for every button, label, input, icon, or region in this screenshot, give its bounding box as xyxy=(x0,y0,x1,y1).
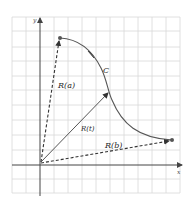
vector-curve-diagram: x y C R(a) R(t) R(b) xyxy=(0,0,191,202)
curve-end-point xyxy=(170,138,174,142)
vector-r-a xyxy=(41,41,59,162)
vector-r-t xyxy=(41,93,108,162)
curve-start-point xyxy=(58,36,62,40)
label-r-t: R(t) xyxy=(80,125,95,133)
curve-direction-arrow-icon xyxy=(88,51,94,58)
label-curve-c: C xyxy=(103,66,109,75)
label-r-a: R(a) xyxy=(57,81,75,90)
label-r-b: R(b) xyxy=(104,141,122,150)
y-axis-label: y xyxy=(32,16,37,24)
